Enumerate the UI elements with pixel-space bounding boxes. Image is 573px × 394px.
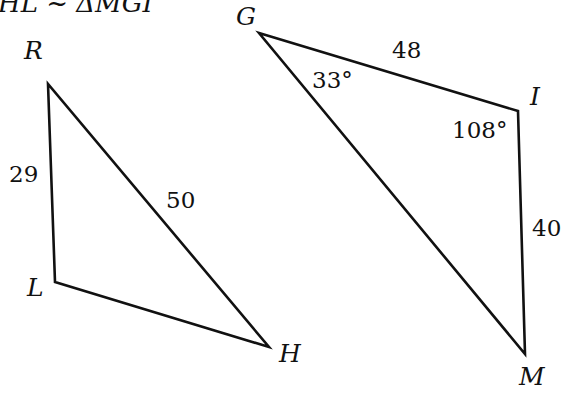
side-label-GI: 48 [392,39,421,62]
vertex-label-R: R [24,38,43,63]
angle-label-I: 108° [452,119,507,142]
triangle-MGI [259,33,525,354]
side-label-RL: 29 [9,163,38,186]
angle-label-G: 33° [312,69,353,92]
triangle-RHL [48,84,269,347]
vertex-label-M: M [519,364,545,389]
vertex-label-H: H [279,341,301,366]
similar-triangles-diagram: HL ~ ΔMGI R L H 29 50 G I M 48 40 33° 10… [0,0,573,394]
similarity-statement: HL ~ ΔMGI [0,0,153,18]
vertex-label-G: G [236,4,256,29]
triangles-canvas [0,0,573,394]
vertex-label-I: I [530,84,540,109]
vertex-label-L: L [27,275,44,300]
side-label-RH: 50 [166,189,195,212]
side-label-IM: 40 [532,217,561,240]
